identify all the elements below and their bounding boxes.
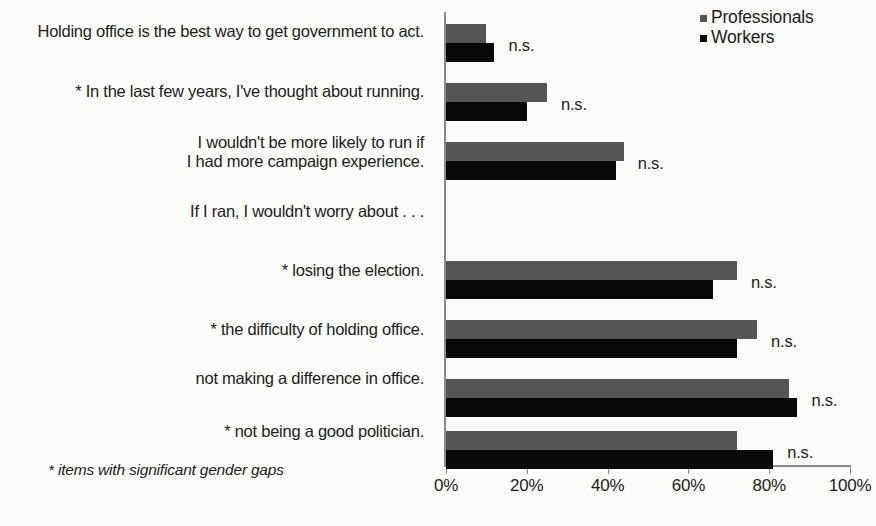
category-label-line: If I ran, I wouldn't worry about . . . xyxy=(190,202,424,220)
bar-workers xyxy=(446,398,797,417)
category-label: If I ran, I wouldn't worry about . . . xyxy=(0,202,432,221)
bar-professionals xyxy=(446,379,789,398)
category-label: * not being a good politician. xyxy=(0,422,432,441)
bar-workers xyxy=(446,102,527,121)
category-label-line: not making a difference in office. xyxy=(196,369,424,387)
category-label-line: * In the last few years, I've thought ab… xyxy=(75,82,424,100)
bar-professionals xyxy=(446,24,486,43)
x-axis-tick-label: 60% xyxy=(672,476,705,496)
category-label-line: * not being a good politician. xyxy=(224,422,424,440)
bar-professionals xyxy=(446,320,757,339)
significance-annotation: n.s. xyxy=(561,95,587,114)
category-label-line: * losing the election. xyxy=(282,261,424,279)
bar-professionals xyxy=(446,261,737,280)
category-label: * losing the election. xyxy=(0,261,432,280)
significance-annotation: n.s. xyxy=(811,391,837,410)
x-axis-tick-label: 80% xyxy=(752,476,785,496)
x-axis-tick-label: 40% xyxy=(591,476,624,496)
significance-annotation: n.s. xyxy=(787,443,813,462)
category-label-line: Holding office is the best way to get go… xyxy=(37,22,424,40)
plot-area: 0%20%40%60%80%100% n.s.n.s.n.s.n.s.n.s.n… xyxy=(446,12,850,465)
bar-workers xyxy=(446,161,616,180)
significance-annotation: n.s. xyxy=(771,332,797,351)
bar-workers xyxy=(446,339,737,358)
bar-workers xyxy=(446,280,713,299)
x-axis-tick xyxy=(850,465,851,474)
significance-annotation: n.s. xyxy=(751,273,777,292)
category-label-line: I wouldn't be more likely to run if xyxy=(198,133,424,151)
category-label: Holding office is the best way to get go… xyxy=(0,22,432,41)
x-axis-tick-label: 20% xyxy=(510,476,543,496)
category-label: I wouldn't be more likely to run ifI had… xyxy=(0,133,432,171)
bar-workers xyxy=(446,43,494,62)
bar-professionals xyxy=(446,142,624,161)
category-label-line: * the difficulty of holding office. xyxy=(210,320,424,338)
bar-professionals xyxy=(446,431,737,450)
category-label: not making a difference in office. xyxy=(0,369,432,388)
x-axis-tick-label: 100% xyxy=(829,476,872,496)
category-label: * the difficulty of holding office. xyxy=(0,320,432,339)
significance-annotation: n.s. xyxy=(638,154,664,173)
bar-workers xyxy=(446,450,773,469)
bar-professionals xyxy=(446,83,547,102)
category-label: * In the last few years, I've thought ab… xyxy=(0,82,432,101)
significance-annotation: n.s. xyxy=(508,36,534,55)
category-label-line: I had more campaign experience. xyxy=(0,152,424,171)
x-axis-tick-label: 0% xyxy=(434,476,458,496)
footnote: * items with significant gender gaps xyxy=(48,461,284,479)
bar-chart: Professionals Workers Holding office is … xyxy=(0,0,876,526)
